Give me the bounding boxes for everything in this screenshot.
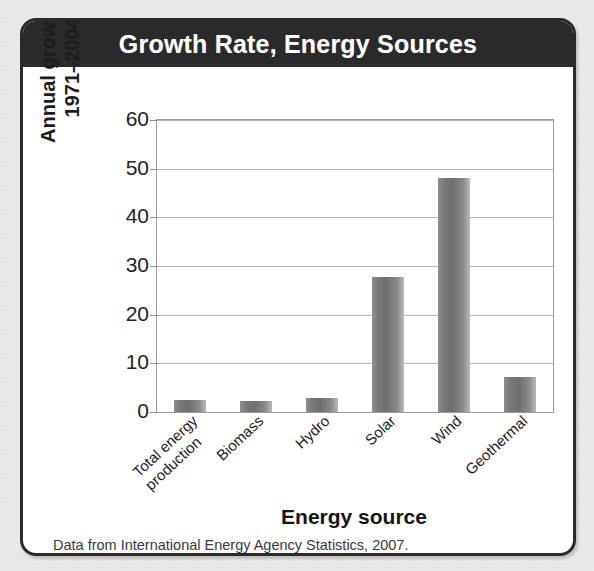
- bar-slot: [487, 120, 553, 412]
- y-tick-label: 10: [101, 350, 149, 374]
- x-tick-label: Solar: [361, 412, 399, 449]
- x-tick-label: Geothermal: [462, 412, 532, 479]
- bar-slot: [421, 120, 487, 412]
- y-tick-mark: [150, 315, 157, 316]
- y-axis-ticks: 0102030405060: [83, 67, 149, 556]
- bar: [174, 400, 206, 412]
- bar: [438, 178, 470, 412]
- y-tick-mark: [150, 266, 157, 267]
- bar: [240, 401, 272, 412]
- bar-slot: [157, 120, 223, 412]
- x-tick-label: Wind: [428, 412, 465, 449]
- y-tick-mark: [150, 120, 157, 121]
- y-tick-label: 20: [101, 302, 149, 326]
- y-tick-label: 60: [101, 107, 149, 131]
- y-tick-mark: [150, 363, 157, 364]
- x-axis-label: Energy source: [156, 505, 552, 529]
- y-axis-label: Annual growth rate, 1971–2004 (%): [37, 18, 84, 149]
- bar: [504, 377, 536, 412]
- bar-slot: [355, 120, 421, 412]
- y-tick-label: 50: [101, 156, 149, 180]
- bar-slot: [223, 120, 289, 412]
- y-tick-label: 0: [101, 399, 149, 423]
- y-tick-mark: [150, 169, 157, 170]
- bar: [306, 398, 338, 412]
- x-tick-label: Biomass: [213, 412, 268, 465]
- x-tick-label: Hydro: [292, 412, 334, 453]
- bar: [372, 277, 404, 412]
- y-tick-label: 40: [101, 204, 149, 228]
- plot-area: [156, 119, 554, 413]
- bar-series: [157, 120, 553, 412]
- source-caption: Data from International Energy Agency St…: [53, 537, 408, 553]
- y-tick-label: 30: [101, 253, 149, 277]
- figure-header: Growth Rate, Energy Sources: [23, 21, 573, 67]
- y-tick-mark: [150, 217, 157, 218]
- chart-title: Growth Rate, Energy Sources: [119, 30, 477, 59]
- bar-slot: [289, 120, 355, 412]
- plot-container: Annual growth rate, 1971–2004 (%) 010203…: [23, 67, 573, 556]
- x-axis-category-labels: Total energy productionBiomassHydroSolar…: [156, 412, 552, 507]
- figure-card: Growth Rate, Energy Sources Annual growt…: [20, 18, 576, 556]
